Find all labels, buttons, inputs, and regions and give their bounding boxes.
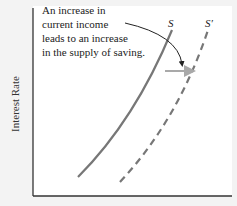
curve-label-s-prime: S′: [205, 17, 213, 29]
annotation-line: An increase in: [42, 3, 145, 17]
annotation-line: current income: [42, 17, 145, 31]
curve-label-s: S: [168, 17, 174, 29]
y-axis-label: Interest Rate: [9, 69, 21, 139]
annotation-line: leads to an increase: [42, 31, 145, 45]
chart: Interest Rate An increase in current inc…: [0, 0, 237, 206]
annotation-text: An increase in current income leads to a…: [42, 3, 145, 59]
annotation-line: in the supply of saving.: [42, 45, 145, 59]
